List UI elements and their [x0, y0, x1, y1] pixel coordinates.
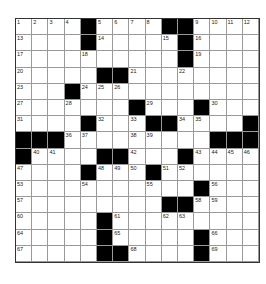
crossword-cell[interactable] — [243, 213, 259, 229]
crossword-cell[interactable] — [129, 51, 145, 67]
crossword-cell[interactable]: 17 — [16, 51, 32, 67]
crossword-cell[interactable] — [48, 100, 64, 116]
crossword-cell[interactable] — [194, 132, 210, 148]
crossword-cell[interactable]: 29 — [146, 100, 162, 116]
crossword-cell[interactable] — [243, 165, 259, 181]
crossword-cell[interactable] — [48, 116, 64, 132]
crossword-cell[interactable] — [162, 132, 178, 148]
crossword-cell[interactable] — [162, 230, 178, 246]
crossword-cell[interactable] — [162, 149, 178, 165]
crossword-cell[interactable] — [146, 230, 162, 246]
crossword-cell[interactable] — [32, 35, 48, 51]
crossword-cell[interactable] — [32, 165, 48, 181]
crossword-cell[interactable] — [243, 68, 259, 84]
crossword-cell[interactable] — [129, 35, 145, 51]
crossword-cell[interactable]: 52 — [178, 165, 194, 181]
crossword-cell[interactable] — [210, 68, 226, 84]
crossword-cell[interactable] — [48, 68, 64, 84]
crossword-cell[interactable]: 9 — [194, 19, 210, 35]
crossword-cell[interactable] — [162, 100, 178, 116]
crossword-cell[interactable]: 46 — [243, 149, 259, 165]
crossword-cell[interactable] — [48, 165, 64, 181]
crossword-cell[interactable]: 50 — [129, 165, 145, 181]
crossword-cell[interactable] — [113, 116, 129, 132]
crossword-cell[interactable] — [146, 197, 162, 213]
crossword-cell[interactable] — [227, 84, 243, 100]
crossword-cell[interactable] — [97, 132, 113, 148]
crossword-cell[interactable]: 60 — [16, 213, 32, 229]
crossword-cell[interactable] — [227, 213, 243, 229]
crossword-cell[interactable] — [178, 100, 194, 116]
crossword-cell[interactable] — [65, 51, 81, 67]
crossword-cell[interactable] — [146, 149, 162, 165]
crossword-cell[interactable] — [227, 68, 243, 84]
crossword-cell[interactable] — [113, 181, 129, 197]
crossword-cell[interactable]: 44 — [210, 149, 226, 165]
crossword-cell[interactable] — [210, 84, 226, 100]
crossword-cell[interactable]: 42 — [129, 149, 145, 165]
crossword-cell[interactable] — [113, 51, 129, 67]
crossword-cell[interactable]: 33 — [129, 116, 145, 132]
crossword-cell[interactable] — [178, 246, 194, 262]
crossword-cell[interactable] — [227, 165, 243, 181]
crossword-cell[interactable]: 49 — [113, 165, 129, 181]
crossword-cell[interactable] — [227, 116, 243, 132]
crossword-cell[interactable] — [194, 68, 210, 84]
crossword-cell[interactable] — [227, 35, 243, 51]
crossword-cell[interactable] — [178, 230, 194, 246]
crossword-cell[interactable]: 67 — [16, 246, 32, 262]
crossword-cell[interactable]: 35 — [194, 116, 210, 132]
crossword-cell[interactable]: 65 — [113, 230, 129, 246]
crossword-cell[interactable]: 66 — [210, 230, 226, 246]
crossword-cell[interactable] — [178, 84, 194, 100]
crossword-cell[interactable] — [32, 197, 48, 213]
crossword-cell[interactable]: 47 — [16, 165, 32, 181]
crossword-cell[interactable] — [32, 246, 48, 262]
crossword-cell[interactable] — [97, 100, 113, 116]
crossword-cell[interactable]: 19 — [194, 51, 210, 67]
crossword-cell[interactable] — [113, 100, 129, 116]
crossword-cell[interactable]: 13 — [16, 35, 32, 51]
crossword-cell[interactable] — [129, 84, 145, 100]
crossword-cell[interactable] — [48, 51, 64, 67]
crossword-cell[interactable] — [81, 197, 97, 213]
crossword-cell[interactable]: 27 — [16, 100, 32, 116]
crossword-cell[interactable] — [129, 230, 145, 246]
crossword-cell[interactable] — [243, 246, 259, 262]
crossword-cell[interactable] — [162, 51, 178, 67]
crossword-cell[interactable]: 38 — [129, 132, 145, 148]
crossword-cell[interactable] — [65, 35, 81, 51]
crossword-cell[interactable] — [162, 181, 178, 197]
crossword-cell[interactable] — [65, 149, 81, 165]
crossword-cell[interactable]: 51 — [162, 165, 178, 181]
crossword-cell[interactable] — [81, 68, 97, 84]
crossword-cell[interactable] — [162, 246, 178, 262]
crossword-cell[interactable] — [48, 213, 64, 229]
crossword-cell[interactable] — [162, 84, 178, 100]
crossword-cell[interactable]: 37 — [81, 132, 97, 148]
crossword-cell[interactable] — [210, 51, 226, 67]
crossword-cell[interactable] — [227, 197, 243, 213]
crossword-cell[interactable]: 18 — [81, 51, 97, 67]
crossword-cell[interactable] — [32, 100, 48, 116]
crossword-cell[interactable]: 10 — [210, 19, 226, 35]
crossword-cell[interactable] — [194, 213, 210, 229]
crossword-cell[interactable]: 16 — [194, 35, 210, 51]
crossword-cell[interactable]: 15 — [162, 35, 178, 51]
crossword-cell[interactable] — [146, 68, 162, 84]
crossword-cell[interactable] — [146, 51, 162, 67]
crossword-cell[interactable] — [210, 165, 226, 181]
crossword-cell[interactable] — [65, 165, 81, 181]
crossword-cell[interactable]: 53 — [16, 181, 32, 197]
crossword-cell[interactable] — [243, 100, 259, 116]
crossword-cell[interactable]: 23 — [16, 84, 32, 100]
crossword-cell[interactable]: 30 — [210, 100, 226, 116]
crossword-cell[interactable] — [113, 35, 129, 51]
crossword-cell[interactable]: 63 — [178, 213, 194, 229]
crossword-cell[interactable]: 24 — [81, 84, 97, 100]
crossword-cell[interactable] — [65, 181, 81, 197]
crossword-cell[interactable] — [65, 230, 81, 246]
crossword-cell[interactable] — [243, 35, 259, 51]
crossword-cell[interactable]: 5 — [97, 19, 113, 35]
crossword-cell[interactable]: 20 — [16, 68, 32, 84]
